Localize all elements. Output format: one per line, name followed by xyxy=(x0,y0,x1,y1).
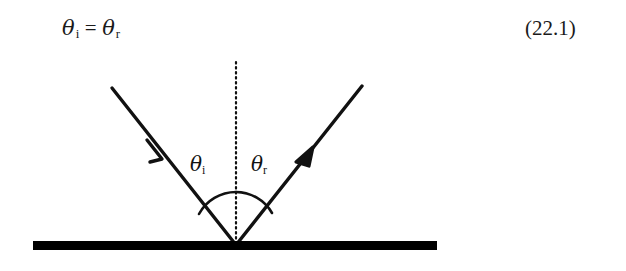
incident-ray xyxy=(112,88,236,245)
incident-angle-subscript: i xyxy=(202,163,205,177)
reflected-angle-arc xyxy=(236,192,272,213)
incident-angle-label: θi xyxy=(190,152,205,178)
reflected-angle-label: θr xyxy=(251,152,267,178)
reflection-diagram-figure: θi=θr (22.1) θi θr xyxy=(0,0,626,271)
reflected-angle-subscript: r xyxy=(263,163,267,177)
reflected-ray-arrowhead-icon xyxy=(296,147,313,166)
diagram-canvas xyxy=(0,0,626,271)
mirror-surface xyxy=(33,241,437,250)
reflected-angle-theta-symbol: θ xyxy=(251,152,263,176)
incident-angle-theta-symbol: θ xyxy=(190,152,202,176)
